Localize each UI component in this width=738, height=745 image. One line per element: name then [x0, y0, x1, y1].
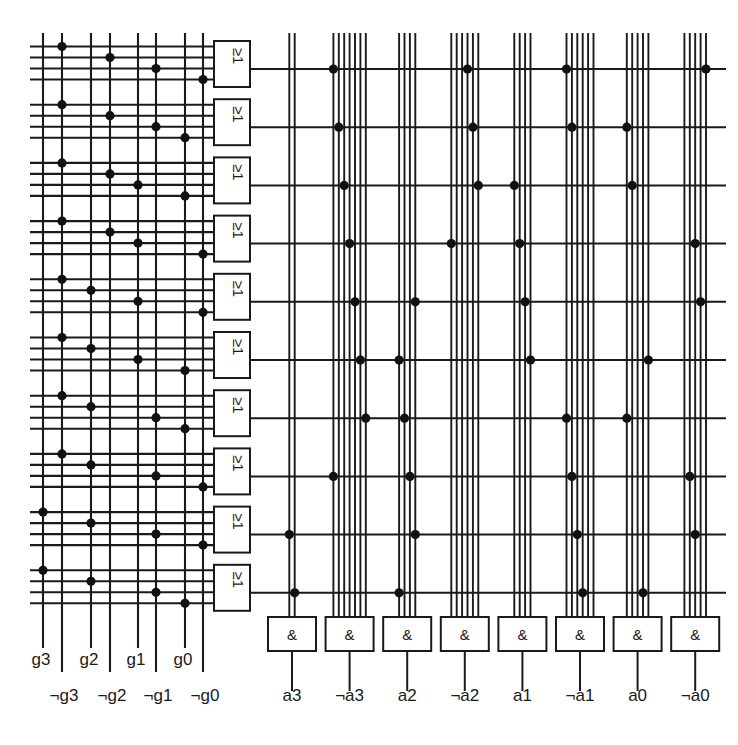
- and-connection-dot: [628, 181, 637, 190]
- pla-diagram-canvas: ≥1≥1≥1≥1≥1≥1≥1≥1≥1≥1 &&&&&&&& g3¬g3g2¬g2…: [0, 0, 738, 745]
- or-connection-dot: [86, 577, 95, 586]
- and-gate-symbol: &: [633, 626, 643, 643]
- or-connection-dot: [86, 286, 95, 295]
- or-connection-dot: [198, 250, 207, 259]
- and-connection-dot: [356, 355, 365, 364]
- and-connection-dot: [526, 355, 535, 364]
- and-output-label: ¬a2: [450, 686, 479, 705]
- and-gate-symbol: &: [345, 626, 355, 643]
- and-gate-symbol: &: [402, 626, 412, 643]
- and-connection-dot: [567, 472, 576, 481]
- and-connection-dot: [510, 181, 519, 190]
- or-gate-symbol: ≥1: [230, 339, 247, 356]
- or-input-label-negated: ¬g2: [98, 686, 127, 705]
- or-connection-dot: [86, 519, 95, 528]
- and-connection-dot: [691, 530, 700, 539]
- and-connection-dot: [622, 123, 631, 132]
- or-gate-symbol: ≥1: [230, 572, 247, 589]
- and-gate-symbol: &: [287, 626, 297, 643]
- and-connection-dot: [411, 530, 420, 539]
- and-connection-dot: [329, 64, 338, 73]
- and-output-label: a2: [398, 686, 417, 705]
- or-connection-dot: [151, 530, 160, 539]
- and-connection-dot: [395, 588, 404, 597]
- or-connection-dot: [38, 566, 47, 575]
- or-gate-symbol: ≥1: [230, 222, 247, 239]
- or-connection-dot: [133, 239, 142, 248]
- and-connection-dot: [285, 530, 294, 539]
- or-connection-dot: [57, 391, 66, 400]
- or-connection-dot: [57, 42, 66, 51]
- and-gate-symbol: &: [575, 626, 585, 643]
- and-gate-symbol: &: [690, 626, 700, 643]
- and-connection-dot: [290, 588, 299, 597]
- or-gate-symbol: ≥1: [230, 281, 247, 298]
- or-connection-dot: [151, 471, 160, 480]
- and-connection-dot: [361, 414, 370, 423]
- and-connection-dot: [334, 123, 343, 132]
- or-connection-dot: [133, 297, 142, 306]
- or-gate-symbol: ≥1: [230, 106, 247, 123]
- and-connection-dot: [622, 414, 631, 423]
- or-input-label-negated: ¬g3: [50, 686, 79, 705]
- or-gate-symbol: ≥1: [230, 164, 247, 181]
- and-connection-dot: [573, 530, 582, 539]
- and-connection-dot: [578, 588, 587, 597]
- or-connection-dot: [86, 402, 95, 411]
- and-connection-dot: [474, 181, 483, 190]
- or-input-label: g2: [80, 650, 99, 669]
- or-input-label-negated: ¬g0: [191, 686, 220, 705]
- or-connection-dot: [180, 424, 189, 433]
- or-input-label: g3: [32, 650, 51, 669]
- or-gate-symbol: ≥1: [230, 455, 247, 472]
- or-connection-dot: [180, 191, 189, 200]
- or-gate-symbol: ≥1: [230, 513, 247, 530]
- or-connection-dot: [105, 53, 114, 62]
- or-connection-dot: [57, 333, 66, 342]
- or-connection-dot: [57, 158, 66, 167]
- and-connection-dot: [515, 239, 524, 248]
- and-connection-dot: [447, 239, 456, 248]
- and-output-label: a0: [628, 686, 647, 705]
- or-gate-symbol: ≥1: [230, 48, 247, 65]
- or-input-label-negated: ¬g1: [144, 686, 173, 705]
- or-connection-dot: [198, 541, 207, 550]
- or-connection-dot: [86, 344, 95, 353]
- or-connection-dot: [180, 599, 189, 608]
- and-connection-dot: [345, 239, 354, 248]
- or-input-label: g0: [174, 650, 193, 669]
- and-connection-dot: [405, 472, 414, 481]
- or-connection-dot: [198, 482, 207, 491]
- and-output-label: a1: [513, 686, 532, 705]
- or-connection-dot: [198, 75, 207, 84]
- and-connection-dot: [329, 472, 338, 481]
- or-connection-dot: [198, 308, 207, 317]
- or-connection-dot: [105, 228, 114, 237]
- and-gate-symbol: &: [517, 626, 527, 643]
- and-connection-dot: [463, 64, 472, 73]
- and-connection-dot: [685, 472, 694, 481]
- and-connection-dot: [350, 297, 359, 306]
- and-connection-dot: [340, 181, 349, 190]
- and-connection-dot: [701, 64, 710, 73]
- or-connection-dot: [180, 366, 189, 375]
- or-connection-dot: [57, 449, 66, 458]
- and-output-label: a3: [283, 686, 302, 705]
- or-connection-dot: [38, 507, 47, 516]
- or-connection-dot: [180, 133, 189, 142]
- or-connection-dot: [151, 64, 160, 73]
- and-gate-symbol: &: [460, 626, 470, 643]
- and-connection-dot: [691, 239, 700, 248]
- and-output-label: ¬a0: [681, 686, 710, 705]
- or-connection-dot: [57, 217, 66, 226]
- and-connection-dot: [638, 588, 647, 597]
- and-output-label: ¬a1: [566, 686, 595, 705]
- or-connection-dot: [133, 355, 142, 364]
- or-connection-dot: [105, 111, 114, 120]
- or-connection-dot: [151, 413, 160, 422]
- or-connection-dot: [105, 169, 114, 178]
- and-connection-dot: [411, 297, 420, 306]
- and-connection-dot: [562, 64, 571, 73]
- or-gate-symbol: ≥1: [230, 397, 247, 414]
- or-connection-dot: [57, 275, 66, 284]
